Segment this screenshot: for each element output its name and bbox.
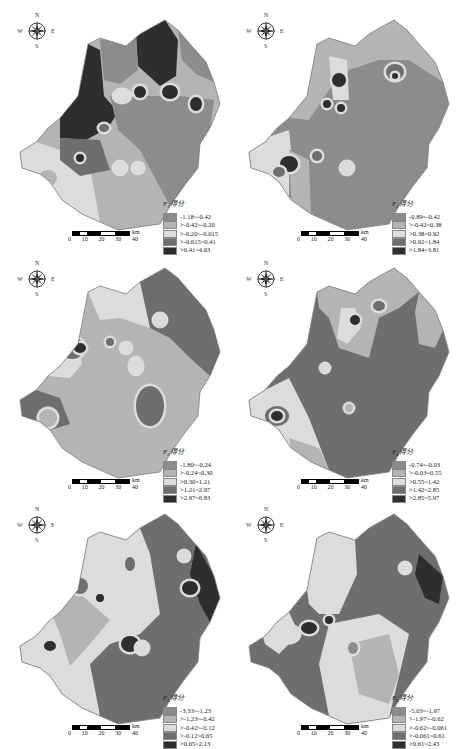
scale-bar-ticks: 010203040 (297, 236, 367, 242)
compass-west-label: W (246, 28, 252, 34)
compass-south-label: S (35, 43, 38, 49)
map-hotspot-class-1 (348, 642, 358, 654)
map-panel-f4: N S W E km 010203040 F4得分 -0.74~-0.03>-0… (229, 248, 457, 496)
scale-bar: km 010203040 (68, 479, 158, 493)
compass-rose-icon: N S W E (22, 262, 52, 296)
legend-swatch (163, 469, 177, 477)
legend-swatch (163, 741, 177, 749)
legend-swatch (392, 461, 406, 469)
legend-item: >-0.62~-0.061 (392, 724, 457, 732)
legend-swatch (163, 732, 177, 740)
map-hotspot-class-3 (114, 90, 130, 102)
scale-bar: km 010203040 (68, 231, 158, 245)
legend-title: F5得分 (163, 694, 231, 706)
map-hotspot-class-5 (76, 154, 84, 162)
compass-north-label: N (264, 12, 268, 18)
legend-item: >-1.97~-0.62 (392, 715, 457, 723)
compass-rose-icon: N S W E (22, 508, 52, 542)
scale-bar-tick-label: 0 (68, 236, 71, 242)
scale-bar: km 010203040 (297, 231, 387, 245)
compass-west-label: W (17, 276, 23, 282)
scale-bar-tick-label: 20 (328, 236, 334, 242)
legend-label: >0.92~1.84 (409, 238, 439, 246)
map-hotspot-class-2 (39, 170, 57, 186)
legend-label: >-0.42~-0.12 (180, 724, 215, 732)
scale-bar-unit: km (361, 477, 369, 483)
legend-label: >-0.62~-0.061 (409, 724, 447, 732)
legend-item: -5.03~-1.97 (392, 707, 457, 715)
map-hotspot-class-5 (323, 100, 331, 108)
scale-bar-tick-label: 10 (311, 236, 317, 242)
scale-bar-unit: km (132, 229, 140, 235)
legend-item: -0.89~-0.42 (392, 213, 457, 221)
legend-label: >-1.97~-0.62 (409, 715, 444, 723)
map-hotspot-class-5 (350, 315, 360, 325)
map-hotspot-class-4 (312, 151, 322, 161)
scale-bar: km 010203040 (68, 725, 158, 739)
compass-east-label: E (51, 276, 55, 282)
scale-bar-tick-label: 0 (297, 484, 300, 490)
legend-label: >-0.20~-0.015 (180, 230, 218, 238)
scale-bar-tick-label: 30 (115, 236, 121, 242)
compass-east-label: E (280, 276, 284, 282)
compass-south-label: S (264, 291, 267, 297)
scale-bar-ticks: 010203040 (297, 730, 367, 736)
legend-item: >0.92~1.84 (392, 238, 457, 246)
legend-item: -1.18~-0.42 (163, 213, 231, 221)
legend-item: >-0.42~-0.20 (163, 221, 231, 229)
scale-bar-tick-label: 10 (311, 484, 317, 490)
legend-label: >-0.24~0.30 (180, 469, 213, 477)
legend-label: >0.65~2.13 (180, 740, 210, 748)
legend-label: >0.30~1.21 (180, 478, 210, 486)
legend-swatch (392, 732, 406, 740)
map-panel-f1: N S W E km 010203040 F1得分 -1.18~-0.42>-0… (0, 0, 228, 248)
legend-item: -0.74~-0.03 (392, 461, 457, 469)
legend-label: >0.55~1.42 (409, 478, 439, 486)
compass-east-label: E (51, 28, 55, 34)
legend-label: -3.33~-1.23 (180, 707, 211, 715)
legend-label: -1.18~-0.42 (180, 213, 211, 221)
legend-item: -1.80~-0.24 (163, 461, 231, 469)
legend-swatch (163, 221, 177, 229)
legend-label: >-0.015~0.41 (180, 238, 216, 246)
map-hotspot-class-5 (337, 104, 345, 112)
map-panel-f3: N S W E km 010203040 F3得分 -1.80~-0.24>-0… (0, 248, 228, 496)
legend-item: >-0.24~0.30 (163, 469, 231, 477)
legend-swatch (392, 707, 406, 715)
legend-title: F1得分 (163, 200, 231, 212)
scale-bar-tick-label: 10 (82, 730, 88, 736)
scale-bar-tick-label: 0 (297, 730, 300, 736)
legend-title: F3得分 (163, 448, 231, 460)
map-hotspot-class-4 (106, 338, 114, 346)
legend-item: >-1.23~-0.42 (163, 715, 231, 723)
legend-item: >0.30~1.21 (163, 478, 231, 486)
map-hotspot-class-3 (130, 358, 142, 374)
compass-south-label: S (35, 291, 38, 297)
map-hotspot-class-3 (333, 557, 345, 571)
legend-label: >-0.03~0.55 (409, 469, 442, 477)
legend-label: >-0.42~-0.20 (180, 221, 215, 229)
scale-bar-tick-label: 10 (311, 730, 317, 736)
legend-item: >-0.061~0.61 (392, 732, 457, 740)
legend-title: F2得分 (392, 200, 457, 212)
map-hotspot-class-5 (74, 343, 86, 353)
compass-west-label: W (17, 522, 23, 528)
scale-bar-unit: km (361, 723, 369, 729)
compass-east-label: E (280, 522, 284, 528)
scale-bar: km 010203040 (297, 479, 387, 493)
compass-north-label: N (35, 12, 39, 18)
compass-north-label: N (264, 506, 268, 512)
legend-swatch (163, 461, 177, 469)
legend-item: >-0.42~0.38 (392, 221, 457, 229)
map-legend: F2得分 -0.89~-0.42>-0.42~0.38>0.38~0.92>0.… (392, 200, 457, 255)
scale-bar-tick-label: 10 (82, 236, 88, 242)
legend-item: >0.61~2.43 (392, 740, 457, 748)
legend-swatch (392, 478, 406, 486)
compass-south-label: S (264, 43, 267, 49)
legend-swatch (163, 707, 177, 715)
legend-label: >-1.23~-0.42 (180, 715, 215, 723)
map-legend: F1得分 -1.18~-0.42>-0.42~-0.20>-0.20~-0.01… (163, 200, 231, 255)
map-hotspot-class-3 (279, 626, 299, 642)
scale-bar-tick-label: 30 (115, 730, 121, 736)
map-hotspot-class-3 (154, 314, 166, 326)
